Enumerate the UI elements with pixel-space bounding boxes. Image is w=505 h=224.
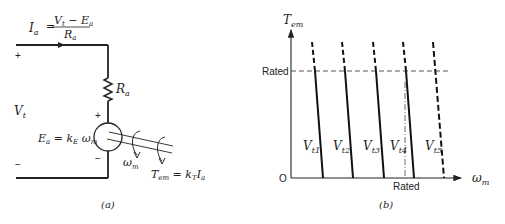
origin-label: O — [279, 173, 287, 184]
terminal-minus: − — [15, 159, 21, 170]
curve-label-vt4: Vt4 — [390, 139, 407, 155]
curve-label-vt3: Vt3 — [363, 139, 380, 155]
caption-b: (b) — [379, 199, 393, 210]
torque-rotation-arrow-icon — [157, 137, 165, 161]
current-equation-denominator: Ra — [63, 28, 76, 42]
current-label: Ia — [28, 21, 39, 37]
curve-vt2 — [342, 42, 353, 178]
resistor-icon — [104, 78, 112, 101]
emf-equation: Ea = kE ωm — [37, 132, 98, 146]
torque-equation: Tem = kTIa — [151, 168, 205, 182]
terminal-plus: + — [15, 50, 21, 61]
torque-speed-chart: Tem ωm O Rated Rated Vt1 Vt2 Vt3 Vt4 Vt5… — [262, 13, 490, 210]
current-equation-numerator: Vt − Ea — [54, 14, 93, 28]
resistor-label: Ra — [115, 82, 130, 98]
curve-vt3 — [373, 42, 384, 178]
speed-rotation-arrow-icon — [132, 131, 140, 155]
circuit-diagram: Ia = Vt − Ea Ra Ra + − Vt + − Ea = kE ωm… — [14, 14, 205, 210]
curve-label-vt5: Vt5 — [425, 139, 442, 155]
curve-label-vt2: Vt2 — [333, 139, 350, 155]
rated-speed-label: Rated — [393, 181, 420, 192]
curve-vt1 — [312, 42, 323, 178]
current-arrow-icon — [58, 42, 65, 48]
y-axis-label: Tem — [283, 13, 304, 29]
terminal-voltage-label: Vt — [14, 104, 27, 120]
figure-canvas: Ia = Vt − Ea Ra Ra + − Vt + − Ea = kE ωm… — [0, 0, 505, 224]
motor-armature-icon — [94, 123, 122, 151]
curve-vt5 — [433, 42, 444, 178]
emf-plus: + — [95, 110, 101, 121]
curve-label-vt1: Vt1 — [303, 139, 320, 155]
caption-a: (a) — [101, 199, 115, 210]
x-axis-label: ωm — [472, 171, 490, 187]
rated-torque-label: Rated — [262, 66, 289, 77]
emf-minus: − — [95, 153, 101, 164]
